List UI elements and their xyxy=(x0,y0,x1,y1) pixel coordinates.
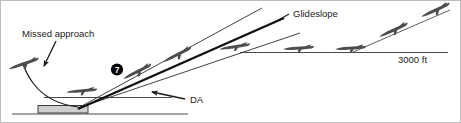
missed-approach-label: Missed approach xyxy=(22,28,94,39)
step-marker-label: 7 xyxy=(115,65,120,75)
step-marker-7: 7 xyxy=(111,63,123,75)
diagram-canvas: 7 Missed approach Glideslope DA 3000 ft xyxy=(0,0,461,123)
altitude-label: 3000 ft xyxy=(398,54,427,65)
approach-profile-diagram: 7 Missed approach Glideslope DA 3000 ft xyxy=(0,0,461,123)
decision-altitude-label: DA xyxy=(190,94,204,105)
glideslope-label: Glideslope xyxy=(293,8,338,19)
diagram-background xyxy=(0,0,461,123)
